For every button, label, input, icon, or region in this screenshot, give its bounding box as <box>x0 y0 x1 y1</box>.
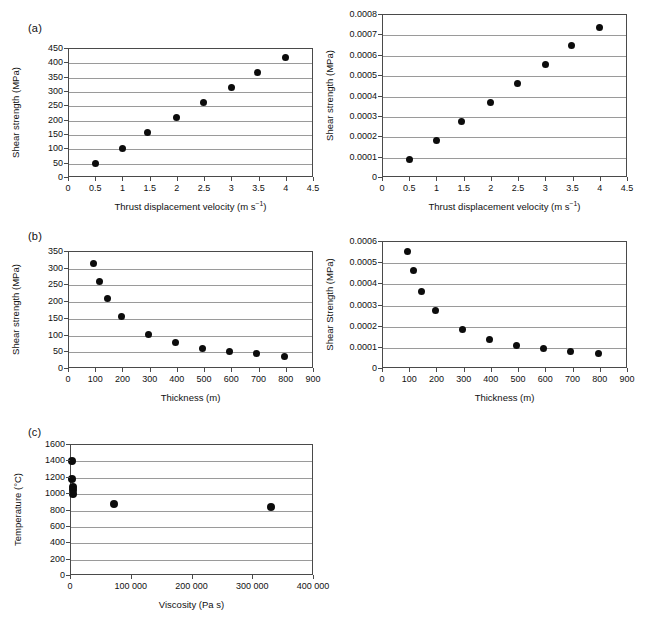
y-axis-tick-mark <box>66 444 70 445</box>
y-axis-tick-label: 200 <box>22 554 65 564</box>
gridline <box>69 269 312 270</box>
y-axis-tick-label: 250 <box>20 100 63 110</box>
data-point <box>568 42 575 49</box>
y-axis-tick-label: 200 <box>20 296 63 306</box>
data-point <box>432 307 439 314</box>
x-axis-tick-label: 3.5 <box>252 183 265 193</box>
y-axis-tick-label: 1000 <box>22 488 65 498</box>
y-axis-tick-mark <box>64 163 68 164</box>
panel-label-c: (c) <box>28 426 41 438</box>
x-axis-tick-label: 200 <box>429 374 444 384</box>
y-axis-tick-mark <box>378 136 382 137</box>
gridline <box>71 494 312 495</box>
y-axis-tick-label: 100 <box>20 330 63 340</box>
gridline <box>383 35 626 36</box>
x-axis-tick-label: 3 <box>543 183 548 193</box>
x-axis-tick-mark <box>545 368 546 372</box>
data-point <box>96 278 103 285</box>
gridline <box>383 97 626 98</box>
gridline <box>383 76 626 77</box>
y-axis-tick-label: 0.0003 <box>334 300 377 310</box>
x-axis-tick-mark <box>131 575 132 579</box>
x-axis-tick-mark <box>231 177 232 181</box>
x-axis-tick-mark <box>286 177 287 181</box>
data-point <box>459 326 466 333</box>
y-axis-tick-label: 350 <box>20 246 63 256</box>
y-axis-tick-mark <box>64 318 68 319</box>
gridline <box>69 135 312 136</box>
y-axis-tick-label: 0.0004 <box>334 278 377 288</box>
y-axis-tick-mark <box>64 91 68 92</box>
x-axis-tick-label: 400 000 <box>297 581 330 591</box>
x-axis-tick-label: 4.5 <box>621 183 634 193</box>
x-axis-tick-label: 3 <box>229 183 234 193</box>
x-axis-title: Thrust displacement velocity (m s−1) <box>382 201 627 212</box>
y-axis-tick-label: 0 <box>334 363 377 373</box>
plot-area-b-left <box>68 251 313 368</box>
y-axis-tick-mark <box>64 48 68 49</box>
data-point <box>200 99 207 106</box>
x-axis-tick-label: 600 <box>538 374 553 384</box>
data-point <box>410 267 417 274</box>
y-axis-tick-mark <box>378 347 382 348</box>
gridline <box>69 302 312 303</box>
y-axis-tick-mark <box>64 134 68 135</box>
y-axis-tick-label: 0 <box>334 172 377 182</box>
y-axis-tick-mark <box>378 14 382 15</box>
panel-label-b: (b) <box>28 230 42 242</box>
y-axis-tick-label: 0.0008 <box>334 9 377 19</box>
y-axis-tick-label: 800 <box>22 505 65 515</box>
data-point <box>145 331 152 338</box>
x-axis-tick-label: 800 <box>592 374 607 384</box>
gridline <box>69 78 312 79</box>
gridline <box>383 117 626 118</box>
x-axis-tick-label: 300 <box>142 374 157 384</box>
y-axis-tick-label: 0 <box>22 570 65 580</box>
gridline <box>71 511 312 512</box>
x-axis-tick-mark <box>150 177 151 181</box>
y-axis-tick-mark <box>64 335 68 336</box>
y-axis-tick-label: 400 <box>22 537 65 547</box>
data-point <box>282 54 289 61</box>
x-axis-tick-label: 2 <box>174 183 179 193</box>
data-point <box>253 350 260 357</box>
data-point <box>513 342 520 349</box>
y-axis-tick-label: 0.0006 <box>334 50 377 60</box>
gridline <box>71 527 312 528</box>
y-axis-tick-label: 0.0004 <box>334 91 377 101</box>
x-axis-tick-label: 0 <box>65 183 70 193</box>
x-axis-tick-mark <box>409 177 410 181</box>
x-axis-tick-label: 4.5 <box>307 183 320 193</box>
gridline <box>69 92 312 93</box>
data-point <box>119 145 126 152</box>
x-axis-tick-label: 0 <box>65 374 70 384</box>
x-axis-tick-label: 100 <box>402 374 417 384</box>
x-axis-tick-mark <box>491 177 492 181</box>
data-point <box>418 288 425 295</box>
y-axis-tick-label: 0 <box>20 363 63 373</box>
y-axis-tick-mark <box>378 157 382 158</box>
panel-b-right: 00.00010.00020.00030.00040.00050.0006010… <box>330 225 646 420</box>
y-axis-tick-mark <box>378 283 382 284</box>
y-axis-tick-label: 0.0002 <box>334 131 377 141</box>
x-axis-tick-mark <box>545 177 546 181</box>
data-point <box>487 99 494 106</box>
data-point <box>90 260 97 267</box>
y-axis-tick-mark <box>378 96 382 97</box>
plot-area-b-right <box>382 241 627 368</box>
x-axis-tick-mark <box>68 368 69 372</box>
y-axis-title: Temperature (°C) <box>12 444 23 575</box>
y-axis-tick-mark <box>64 77 68 78</box>
x-axis-tick-mark <box>518 177 519 181</box>
data-point <box>228 84 235 91</box>
plot-area-c <box>70 444 313 575</box>
y-axis-tick-mark <box>378 305 382 306</box>
x-axis-tick-mark <box>95 368 96 372</box>
y-axis-tick-label: 0.0003 <box>334 111 377 121</box>
gridline <box>383 158 626 159</box>
x-axis-tick-mark <box>150 368 151 372</box>
x-axis-tick-mark <box>313 177 314 181</box>
gridline <box>69 149 312 150</box>
y-axis-title: Shear strength (MPa) <box>10 48 21 177</box>
y-axis-tick-label: 0.0007 <box>334 29 377 39</box>
